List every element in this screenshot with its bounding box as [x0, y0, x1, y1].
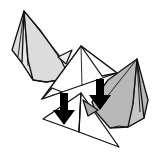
origami-diagram-svg	[0, 0, 159, 158]
origami-diagram	[0, 0, 159, 158]
